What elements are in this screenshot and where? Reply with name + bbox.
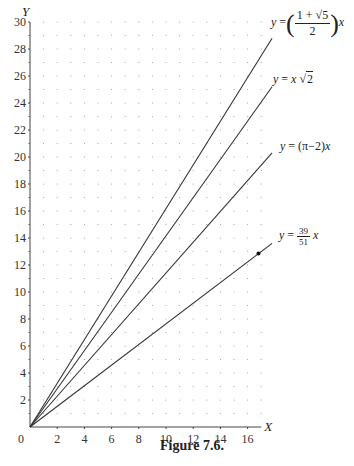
grid-dot bbox=[179, 35, 180, 36]
grid-dot bbox=[57, 35, 58, 36]
right-paren: ) bbox=[330, 9, 339, 38]
grid-dot bbox=[138, 224, 139, 225]
grid-dot bbox=[70, 318, 71, 319]
grid-dot bbox=[220, 251, 221, 252]
grid-dot bbox=[247, 48, 248, 49]
grid-dot bbox=[165, 264, 166, 265]
grid-dot bbox=[179, 399, 180, 400]
grid-dot bbox=[138, 359, 139, 360]
grid-dot bbox=[111, 291, 112, 292]
grid-dot bbox=[97, 278, 98, 279]
grid-dot bbox=[97, 102, 98, 103]
grid-dot bbox=[220, 318, 221, 319]
grid-dot bbox=[206, 35, 207, 36]
grid-dot bbox=[84, 102, 85, 103]
grid-dot bbox=[152, 359, 153, 360]
grid-dot bbox=[220, 305, 221, 306]
grid-dot bbox=[220, 89, 221, 90]
grid-dot bbox=[111, 21, 112, 22]
series-line-2 bbox=[30, 87, 272, 427]
y-tick-label: 16 bbox=[14, 204, 26, 218]
ratio-fraction: 3951 bbox=[297, 226, 310, 247]
grid-dot bbox=[138, 210, 139, 211]
grid-dot bbox=[97, 237, 98, 238]
grid-dot bbox=[70, 278, 71, 279]
grid-dot bbox=[70, 413, 71, 414]
grid-dot bbox=[206, 156, 207, 157]
grid-dot bbox=[193, 75, 194, 76]
y-tick-label: 12 bbox=[14, 258, 26, 272]
grid-dot bbox=[111, 75, 112, 76]
grid-dot bbox=[193, 251, 194, 252]
grid-dot bbox=[165, 413, 166, 414]
grid-dot bbox=[247, 224, 248, 225]
grid-dot bbox=[261, 156, 262, 157]
grid-dot bbox=[84, 170, 85, 171]
grid-dot bbox=[152, 102, 153, 103]
grid-dot bbox=[233, 318, 234, 319]
grid-dot bbox=[97, 48, 98, 49]
grid-dot bbox=[193, 210, 194, 211]
grid-dot bbox=[193, 345, 194, 346]
grid-dot bbox=[97, 413, 98, 414]
fraction-numerator: 1 + √5 bbox=[295, 8, 330, 24]
grid-dot bbox=[220, 62, 221, 63]
grid-dot bbox=[125, 129, 126, 130]
grid-dot bbox=[84, 197, 85, 198]
grid-dot bbox=[233, 278, 234, 279]
grid-dot bbox=[97, 251, 98, 252]
grid-dot bbox=[43, 143, 44, 144]
grid-dot bbox=[152, 413, 153, 414]
grid-dot bbox=[165, 237, 166, 238]
grid-dot bbox=[193, 102, 194, 103]
grid-dot bbox=[220, 332, 221, 333]
grid-dot bbox=[233, 291, 234, 292]
grid-dot bbox=[165, 278, 166, 279]
grid-dot bbox=[247, 35, 248, 36]
grid-dot bbox=[70, 197, 71, 198]
grid-dot bbox=[152, 305, 153, 306]
grid-dot bbox=[57, 62, 58, 63]
grid-dot bbox=[43, 224, 44, 225]
grid-dot bbox=[220, 197, 221, 198]
grid-dot bbox=[70, 62, 71, 63]
grid-dot bbox=[97, 305, 98, 306]
label-golden-ratio-line: y =(1 + √52)x bbox=[271, 8, 344, 39]
grid-dot bbox=[43, 413, 44, 414]
grid-dot bbox=[179, 237, 180, 238]
grid-dot bbox=[97, 386, 98, 387]
grid-dot bbox=[261, 62, 262, 63]
label-eq: = bbox=[287, 228, 294, 242]
grid-dot bbox=[111, 210, 112, 211]
grid-dot bbox=[206, 345, 207, 346]
grid-dot bbox=[152, 156, 153, 157]
grid-dot bbox=[233, 170, 234, 171]
grid-dot bbox=[261, 129, 262, 130]
grid-dot bbox=[138, 264, 139, 265]
grid-dot bbox=[70, 143, 71, 144]
grid-dot bbox=[111, 62, 112, 63]
grid-dot bbox=[193, 264, 194, 265]
grid-dot bbox=[247, 399, 248, 400]
grid-dot bbox=[111, 89, 112, 90]
grid-dot bbox=[84, 89, 85, 90]
label-sqrt2-line: y = x √2 bbox=[273, 72, 313, 87]
grid-dot bbox=[97, 224, 98, 225]
grid-dot bbox=[57, 143, 58, 144]
grid-dot bbox=[247, 197, 248, 198]
grid-dot bbox=[247, 345, 248, 346]
grid-dot bbox=[57, 210, 58, 211]
grid-dot bbox=[179, 197, 180, 198]
grid-dot bbox=[193, 372, 194, 373]
grid-dot bbox=[152, 318, 153, 319]
grid-dot bbox=[111, 318, 112, 319]
grid-dot bbox=[57, 264, 58, 265]
grid-dot bbox=[179, 21, 180, 22]
grid-dot bbox=[125, 413, 126, 414]
grid-dot bbox=[193, 35, 194, 36]
grid-dot bbox=[125, 183, 126, 184]
grid-dot bbox=[70, 237, 71, 238]
grid-dot bbox=[220, 35, 221, 36]
y-tick-label: 2 bbox=[20, 393, 26, 407]
grid-dot bbox=[233, 332, 234, 333]
